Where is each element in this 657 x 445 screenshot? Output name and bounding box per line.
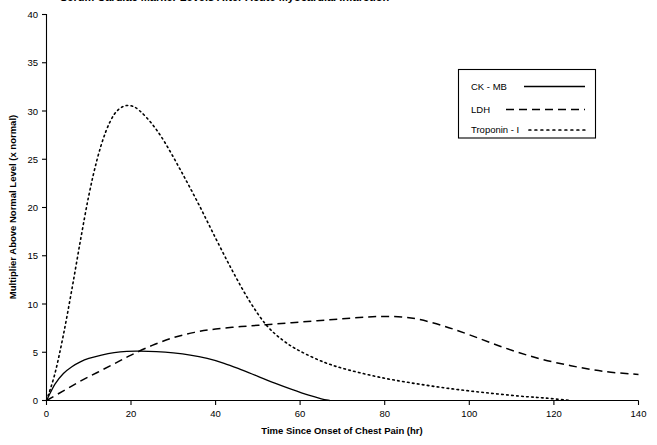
y-tick-label: 25 — [27, 154, 38, 165]
legend-label-ck-mb: CK - MB — [471, 81, 507, 92]
series-line-ck-mb — [47, 351, 330, 400]
legend-label-troponin-i: Troponin - I — [471, 124, 519, 135]
y-axis-tick-labels: 40 35 30 25 20 15 10 5 0 — [27, 9, 38, 406]
y-tick-label: 30 — [27, 106, 38, 117]
legend-label-ldh: LDH — [471, 104, 490, 115]
y-tick-label: 35 — [27, 57, 38, 68]
series-line-ldh — [47, 316, 639, 400]
y-axis-ticks — [42, 15, 47, 401]
plot-area: 40 35 30 25 20 15 10 5 0 0 20 40 60 — [0, 0, 657, 445]
y-tick-label: 0 — [33, 395, 38, 406]
y-tick-label: 10 — [27, 299, 38, 310]
y-axis-title: Multiplier Above Normal Level (x normal) — [7, 115, 18, 299]
y-tick-label: 40 — [27, 9, 38, 20]
x-axis-tick-labels: 0 20 40 60 80 100 120 140 — [44, 408, 647, 419]
x-tick-label: 120 — [546, 408, 562, 419]
y-tick-label: 15 — [27, 250, 38, 261]
x-tick-label: 20 — [126, 408, 137, 419]
y-tick-label: 20 — [27, 202, 38, 213]
legend: CK - MB LDH Troponin - I — [459, 70, 596, 139]
series-line-troponin-i — [47, 105, 571, 400]
cardiac-marker-chart: Serum Cardiac Marker Levels After Acute … — [0, 0, 657, 445]
x-axis-title: Time Since Onset of Chest Pain (hr) — [261, 425, 422, 436]
x-tick-label: 140 — [631, 408, 647, 419]
x-tick-label: 60 — [295, 408, 306, 419]
x-tick-label: 0 — [44, 408, 49, 419]
x-tick-label: 80 — [379, 408, 390, 419]
x-axis-ticks — [47, 401, 639, 406]
y-tick-label: 5 — [33, 347, 38, 358]
x-tick-label: 40 — [210, 408, 221, 419]
x-tick-label: 100 — [461, 408, 477, 419]
